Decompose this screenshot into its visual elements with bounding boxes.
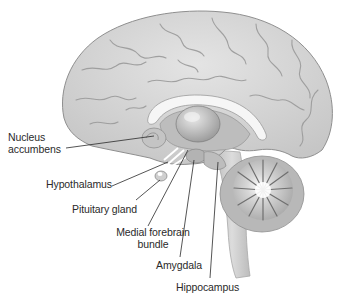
label-hippocampus: Hippocampus [176, 282, 239, 294]
label-line: Amygdala [156, 260, 202, 272]
brain-diagram: Nucleus accumbens Hypothalamus Pituitary… [0, 0, 347, 298]
label-line: accumbens [8, 144, 61, 156]
nucleus-accumbens-structure [142, 128, 166, 148]
cerebellum [220, 156, 304, 232]
label-nucleus-accumbens: Nucleus accumbens [8, 132, 61, 155]
label-line: Nucleus [8, 132, 61, 144]
label-medial-forebrain-bundle: Medial forebrain bundle [107, 227, 199, 250]
label-line: Hippocampus [176, 282, 239, 294]
label-hypothalamus: Hypothalamus [46, 179, 112, 191]
label-amygdala: Amygdala [156, 260, 202, 272]
label-line: Pituitary gland [72, 204, 137, 216]
label-line: bundle [107, 239, 199, 251]
leader-pituitary-gland [136, 180, 160, 200]
leader-hippocampus [210, 162, 218, 278]
label-line: Medial forebrain [107, 227, 199, 239]
label-line: Hypothalamus [46, 179, 112, 191]
thalamus [176, 106, 220, 142]
label-pituitary-gland: Pituitary gland [72, 204, 137, 216]
pituitary-gland-structure [155, 171, 167, 181]
